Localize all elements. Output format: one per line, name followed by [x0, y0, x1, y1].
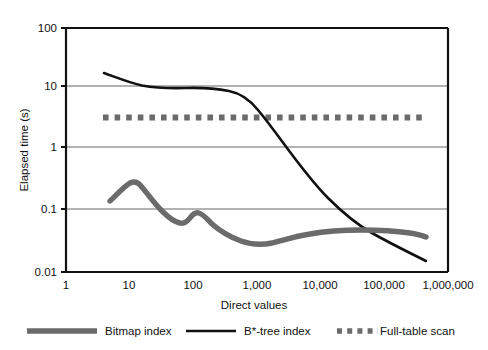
x-tick-labels: 1 10 100 1,000 10,000 100,000 1,000,000	[63, 279, 474, 291]
y-tick-label-1: 1	[51, 141, 57, 153]
legend-item-full-table-scan: Full-table scan	[337, 325, 455, 337]
x-axis-title: Direct values	[221, 299, 288, 311]
x-tick-label-100: 100	[183, 279, 202, 291]
plot-background	[66, 28, 448, 272]
y-tick-label-0.01: 0.01	[35, 266, 57, 278]
legend-item-bitmap-index: Bitmap index	[27, 325, 172, 337]
legend-label-bitmap-index: Bitmap index	[105, 325, 172, 337]
y-tick-labels: 100 10 1 0.1 0.01	[35, 22, 57, 278]
x-tick-label-10: 10	[123, 279, 136, 291]
x-tick-label-1000: 1,000	[243, 279, 272, 291]
x-tick-label-100000: 100,000	[363, 279, 405, 291]
y-tick-label-0.1: 0.1	[41, 203, 57, 215]
chart-legend: Bitmap index B*-tree index Full-table sc…	[27, 325, 455, 337]
legend-label-full-table-scan: Full-table scan	[380, 325, 455, 337]
x-tick-label-10000: 10,000	[302, 279, 337, 291]
x-tick-label-1: 1	[63, 279, 69, 291]
chart-figure: 100 10 1 0.1 0.01 1 10 100 1,000 10,000 …	[0, 0, 488, 350]
legend-item-btree-index: B*-tree index	[186, 325, 311, 337]
y-tick-label-100: 100	[38, 22, 57, 34]
x-tick-label-1000000: 1,000,000	[422, 279, 473, 291]
legend-label-btree-index: B*-tree index	[244, 325, 311, 337]
elapsed-time-vs-direct-values-chart: 100 10 1 0.1 0.01 1 10 100 1,000 10,000 …	[0, 0, 488, 350]
y-axis-title: Elapsed time (s)	[18, 108, 30, 191]
y-tick-label-10: 10	[44, 80, 57, 92]
